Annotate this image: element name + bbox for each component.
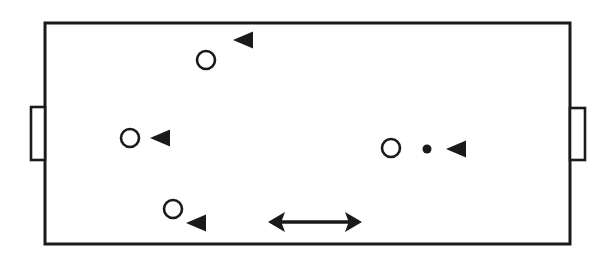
left-goal-box: [31, 107, 45, 160]
player-marker-3: [164, 200, 182, 218]
player-marker-1: [197, 51, 215, 69]
player-marker-2: [121, 129, 139, 147]
player-marker-4: [382, 139, 400, 157]
field-diagram-svg: [0, 0, 604, 255]
right-goal-box: [570, 108, 585, 160]
field-diagram-root: [0, 0, 604, 255]
ball-marker: [423, 145, 432, 154]
